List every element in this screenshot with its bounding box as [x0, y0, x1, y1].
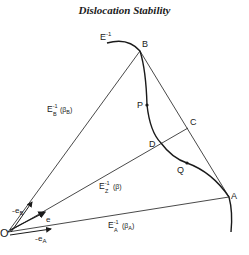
label-C: C	[190, 117, 197, 127]
point-Q	[185, 161, 188, 164]
label-EZ: E-1Z(β)	[99, 180, 122, 194]
vector-eA	[10, 229, 51, 235]
label-O: O	[0, 227, 9, 239]
label-e: e	[46, 215, 51, 224]
label-EA: E-1A(βA)	[108, 219, 134, 233]
dislocation-stability-diagram: O B A C D P Q E-1 E-1B(βB) E-1Z(β) E-1A(…	[0, 0, 249, 255]
point-P	[145, 103, 148, 106]
label-eA: ~eA	[35, 234, 46, 244]
label-Q: Q	[177, 165, 184, 175]
curve-label: E-1	[100, 31, 112, 42]
ray-OC	[8, 128, 188, 232]
label-P: P	[137, 100, 143, 110]
inverse-energy-curve	[107, 41, 232, 232]
label-A: A	[231, 191, 237, 201]
ray-OB	[8, 51, 140, 232]
label-eB: ~eB	[12, 206, 23, 216]
label-D: D	[149, 139, 156, 149]
label-B: B	[142, 39, 148, 49]
label-EB: E-1B(βB)	[47, 103, 72, 117]
chord-BA	[140, 51, 229, 197]
